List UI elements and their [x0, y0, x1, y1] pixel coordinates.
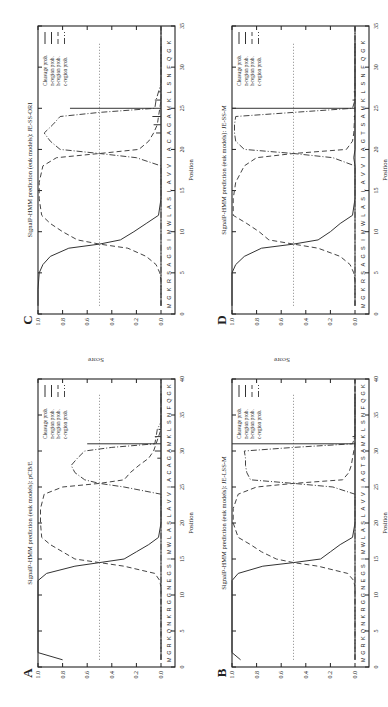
residue-label: G — [166, 593, 172, 597]
legend-label: h-region prob. — [55, 56, 61, 86]
residue-label: Q — [360, 56, 366, 61]
residue-label: R — [166, 279, 172, 283]
residue-label: K — [360, 40, 366, 44]
x-tick-label: 0 — [179, 313, 185, 316]
y-tick-label: 1.0 — [229, 671, 235, 679]
residue-label: E — [360, 578, 366, 582]
residue-label: K — [360, 614, 366, 618]
residue-label: I — [360, 558, 366, 560]
residue-label: T — [360, 463, 366, 467]
panel-letter: A — [20, 668, 35, 678]
residue-label: I — [360, 156, 366, 158]
y-tick-label: 0.6 — [278, 318, 284, 326]
chart-body: 05101520253035Position0.00.20.40.60.81.0… — [214, 23, 388, 326]
y-tick-label: 0.4 — [109, 318, 115, 326]
x-tick-label: 30 — [373, 448, 379, 454]
x-tick-label: 35 — [373, 23, 379, 29]
residue-label: L — [166, 214, 172, 217]
residue-label: I — [360, 239, 366, 241]
residue-label: Q — [166, 56, 172, 61]
x-tick-label: 30 — [179, 64, 185, 70]
x-tick-label: 35 — [179, 23, 185, 29]
y-tick-label: 0.4 — [303, 318, 309, 326]
residue-label: A — [360, 114, 366, 118]
x-tick-label: 40 — [373, 376, 379, 382]
residue-label: L — [360, 90, 366, 93]
residue-label: Q — [166, 398, 172, 403]
residue-label: T — [360, 131, 366, 135]
c-region-line — [71, 379, 161, 660]
residue-label: L — [166, 536, 172, 539]
legend-label: c-region prob. — [256, 57, 262, 86]
residue-label: I — [166, 558, 172, 560]
residue-label: I — [360, 486, 366, 488]
residue-label: V — [166, 164, 172, 168]
y-tick-label: 0.0 — [352, 671, 358, 679]
residue-label: M — [360, 657, 366, 662]
residue-label: A — [166, 449, 172, 453]
residue-label: K — [166, 636, 172, 640]
residue-label: K — [166, 614, 172, 618]
residue-label: G — [360, 295, 366, 299]
residue-label: V — [360, 164, 366, 168]
y-axis-label-left: Score — [88, 356, 104, 364]
x-tick-label: 10 — [179, 592, 185, 598]
x-tick-label: 0 — [373, 313, 379, 316]
legend-label: h-region prob. — [249, 409, 255, 439]
residue-label: L — [360, 214, 366, 217]
legend-label: Cleavage prob. — [42, 55, 48, 86]
residue-label: M — [166, 549, 172, 554]
y-tick-label: 0.8 — [254, 318, 260, 326]
chart-title: SignalP-HMM prediction (euk models): JE-… — [220, 105, 228, 235]
residue-label: A — [360, 180, 366, 184]
residue-label: K — [166, 434, 172, 438]
residue-label: A — [360, 449, 366, 453]
residue-label: E — [166, 578, 172, 582]
residue-label: A — [166, 114, 172, 118]
residue-label: V — [360, 499, 366, 503]
x-tick-label: 20 — [373, 146, 379, 152]
residue-label: K — [360, 384, 366, 388]
x-tick-label: 30 — [373, 64, 379, 70]
x-tick-label: 25 — [179, 484, 185, 490]
legend-label: n-region prob. — [49, 409, 55, 439]
x-axis-label: Position — [187, 512, 194, 534]
panel-letter: D — [214, 315, 229, 324]
residue-label: N — [166, 622, 172, 626]
chart-body: 0510152025303540Position0.00.20.40.60.81… — [214, 376, 388, 679]
residue-label: A — [360, 147, 366, 151]
residue-label: F — [360, 405, 366, 409]
x-tick-label: 10 — [373, 229, 379, 235]
residue-label: L — [360, 428, 366, 431]
y-tick-label: 0.2 — [133, 671, 139, 679]
legend-label: Cleavage prob. — [42, 408, 48, 439]
legend-label: c-region prob. — [62, 410, 68, 439]
residue-label: A — [360, 478, 366, 482]
residue-label: A — [166, 262, 172, 266]
y-tick-label: 0.6 — [84, 318, 90, 326]
residue-label: M — [360, 441, 366, 446]
residue-label: S — [360, 197, 366, 201]
residue-label: A — [166, 506, 172, 510]
residue-label: G — [360, 593, 366, 597]
x-tick-label: 25 — [373, 105, 379, 111]
residue-label: C — [166, 471, 172, 475]
residue-label: A — [166, 180, 172, 184]
residue-label: S — [166, 197, 172, 201]
residue-label: G — [166, 295, 172, 299]
residue-label: M — [360, 106, 366, 111]
residue-label: M — [360, 229, 366, 234]
y-tick-label: 1.0 — [35, 671, 41, 679]
y-tick-label: 0.2 — [327, 318, 333, 326]
legend-label: Cleavage prob. — [236, 55, 242, 86]
x-tick-label: 20 — [179, 146, 185, 152]
residue-label: R — [166, 607, 172, 611]
residue-label: V — [166, 499, 172, 503]
residue-label: F — [166, 65, 172, 69]
residue-label: A — [166, 528, 172, 532]
figure: 05101520253035Position0.00.20.40.60.81.0… — [0, 0, 388, 707]
residue-label: A — [360, 506, 366, 510]
residue-label: G — [360, 391, 366, 395]
residue-label: L — [360, 189, 366, 192]
panel-letter: B — [214, 668, 229, 677]
